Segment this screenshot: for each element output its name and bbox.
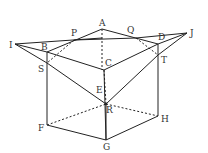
label-Q: Q bbox=[127, 25, 134, 35]
label-P: P bbox=[71, 28, 77, 38]
label-B: B bbox=[41, 42, 48, 52]
label-C: C bbox=[105, 58, 112, 68]
line-IP bbox=[15, 38, 102, 44]
cube-diagram: A B C D E F G H I J P Q R S T bbox=[0, 0, 208, 153]
label-F: F bbox=[38, 123, 44, 133]
edge-FG bbox=[47, 125, 106, 140]
edge-FR-hidden bbox=[47, 104, 106, 125]
label-I: I bbox=[9, 40, 13, 50]
label-T: T bbox=[161, 55, 167, 65]
label-A: A bbox=[98, 18, 106, 28]
edge-RH-hidden bbox=[106, 104, 158, 116]
label-D: D bbox=[158, 32, 165, 42]
edge-BC bbox=[47, 52, 104, 70]
line-SR bbox=[47, 63, 106, 104]
label-G: G bbox=[103, 142, 110, 152]
line-TR bbox=[106, 55, 158, 104]
label-E: E bbox=[96, 85, 103, 95]
edge-GH bbox=[106, 116, 158, 140]
label-J: J bbox=[189, 28, 194, 38]
label-H: H bbox=[161, 114, 169, 124]
label-R: R bbox=[106, 105, 113, 115]
label-S: S bbox=[38, 64, 44, 74]
edge-DC bbox=[104, 44, 158, 70]
